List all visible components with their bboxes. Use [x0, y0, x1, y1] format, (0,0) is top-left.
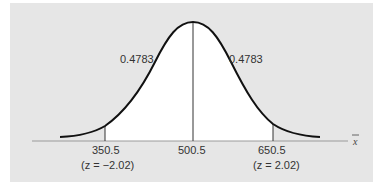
- z-label-right: (z = 2.02): [253, 159, 300, 171]
- axis-label: x: [352, 136, 358, 147]
- right-area-label: 0.4783: [229, 53, 263, 65]
- tick-label-left: 350.5: [92, 144, 120, 156]
- z-label-left: (z = −2.02): [81, 159, 134, 171]
- left-area-label: 0.4783: [120, 53, 154, 65]
- tick-label-center: 500.5: [178, 144, 206, 156]
- tick-label-right: 650.5: [258, 144, 286, 156]
- shaded-region: [105, 22, 273, 141]
- normal-curve-plot: x: [0, 0, 384, 190]
